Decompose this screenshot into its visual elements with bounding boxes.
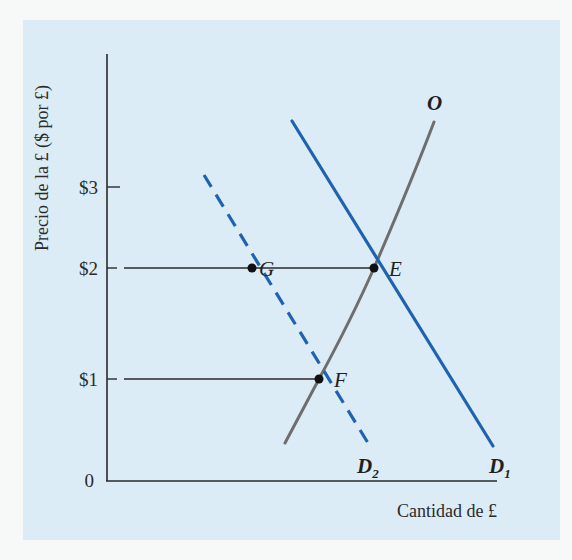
d2-label-main: D xyxy=(356,454,372,478)
point-g-marker xyxy=(248,264,257,273)
tick-label-2: $2 xyxy=(79,258,98,279)
point-f-marker xyxy=(315,375,324,384)
exchange-rate-chart: $3 $2 $1 0 Precio de la £ ($ por £) Cant… xyxy=(0,0,572,560)
tick-label-1: $1 xyxy=(79,369,98,390)
tick-label-3: $3 xyxy=(79,177,98,198)
point-e-marker xyxy=(370,264,379,273)
d1-label-subscript: 1 xyxy=(504,466,511,481)
supply-label-o: O xyxy=(427,91,442,115)
point-g-label: G xyxy=(259,257,274,281)
x-axis-title: Cantidad de £ xyxy=(397,501,497,521)
d2-label-subscript: 2 xyxy=(371,466,379,481)
d1-label-main: D xyxy=(488,454,504,478)
y-axis-title: Precio de la £ ($ por £) xyxy=(32,85,53,251)
d2-label: D2 xyxy=(356,454,379,481)
point-e-label: E xyxy=(388,257,402,281)
d1-label: D1 xyxy=(488,454,511,481)
tick-label-0: 0 xyxy=(85,470,95,491)
point-f-label: F xyxy=(333,368,347,392)
supply-curve-o xyxy=(285,122,434,443)
demand-curve-d1 xyxy=(292,121,493,446)
demand-curve-d2 xyxy=(204,175,368,443)
